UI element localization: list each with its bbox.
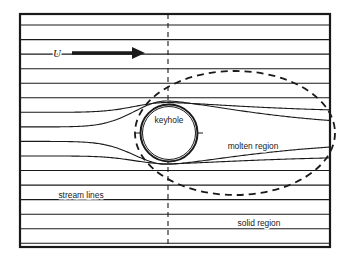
solid-region-label: solid region — [238, 218, 281, 228]
velocity-label: U — [53, 47, 62, 59]
stream-lines-label: stream lines — [58, 190, 103, 200]
keyhole-outer-circle — [141, 105, 198, 162]
figure-root: keyholemolten regionstream linessolid re… — [0, 0, 348, 264]
keyhole-boundary — [141, 105, 198, 162]
molten-region-label: molten region — [228, 141, 279, 151]
keyhole-label: keyhole — [155, 115, 184, 125]
keyhole-flow-diagram: keyholemolten regionstream linessolid re… — [0, 0, 348, 264]
